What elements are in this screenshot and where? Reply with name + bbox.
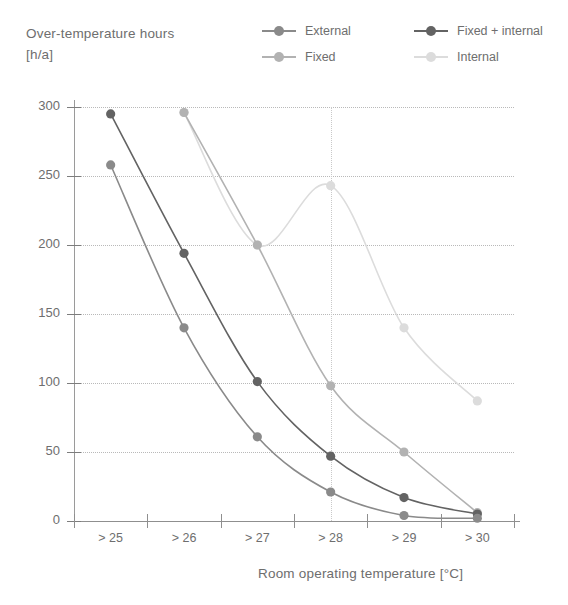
data-point [399, 511, 408, 520]
x-axis-tick [441, 514, 442, 528]
x-axis-tick-label: > 30 [445, 531, 509, 545]
data-point [253, 432, 262, 441]
data-point [326, 452, 335, 461]
series-layer [0, 0, 568, 605]
x-axis-tick-label: > 29 [372, 531, 436, 545]
data-point [179, 323, 188, 332]
data-point [253, 377, 262, 386]
data-point [473, 396, 482, 405]
y-axis-tick-label: 0 [14, 512, 60, 527]
series-line [111, 114, 478, 514]
x-axis-tick-label: > 27 [225, 531, 289, 545]
x-axis-tick [367, 514, 368, 528]
series-fixed-internal [106, 109, 482, 518]
y-axis-tick-label: 250 [14, 167, 60, 182]
x-axis-tick-label: > 25 [79, 531, 143, 545]
y-axis-tick [67, 452, 81, 453]
x-axis-tick [514, 514, 515, 528]
over-temperature-hours-chart: Over-temperature hours [h/a] Room operat… [0, 0, 568, 605]
y-axis-tick-label: 100 [14, 374, 60, 389]
x-axis-tick [221, 514, 222, 528]
y-axis-tick [67, 245, 81, 246]
data-point [253, 240, 262, 249]
data-point [179, 108, 188, 117]
y-axis-tick-label: 150 [14, 305, 60, 320]
x-axis-tick-label: > 28 [299, 531, 363, 545]
data-point [399, 493, 408, 502]
y-axis-tick-label: 300 [14, 98, 60, 113]
y-axis-tick [67, 314, 81, 315]
data-point [326, 381, 335, 390]
y-axis-tick-label: 50 [14, 443, 60, 458]
x-axis-tick [74, 514, 75, 528]
x-axis-tick [147, 514, 148, 528]
y-axis-tick-label: 200 [14, 236, 60, 251]
data-point [473, 514, 482, 523]
data-point [106, 160, 115, 169]
y-axis-tick [67, 383, 81, 384]
series-internal [179, 108, 482, 406]
data-point [399, 323, 408, 332]
data-point [399, 447, 408, 456]
series-line [184, 113, 477, 401]
y-axis-tick [67, 107, 81, 108]
x-axis-tick [294, 514, 295, 528]
data-point [179, 249, 188, 258]
data-point [326, 487, 335, 496]
y-axis-tick [67, 176, 81, 177]
x-axis-tick-label: > 26 [152, 531, 216, 545]
data-point [106, 109, 115, 118]
data-point [326, 181, 335, 190]
